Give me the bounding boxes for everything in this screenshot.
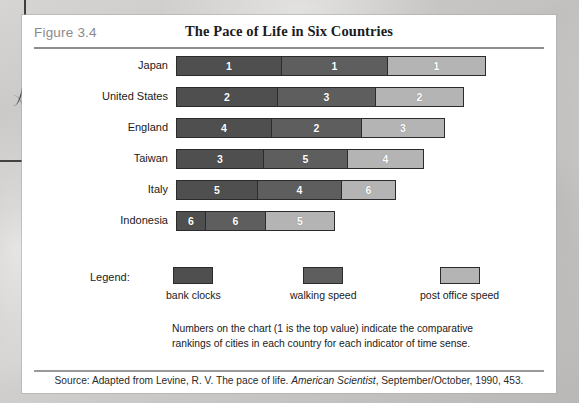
bar-segment: 2 (271, 119, 361, 137)
bar-segment: 1 (281, 57, 387, 75)
legend-item-label: walking speed (290, 289, 357, 301)
segment-rank-label: 6 (366, 185, 372, 196)
legend-item-label: post office speed (420, 289, 499, 301)
bar-row: Japan111 (22, 55, 556, 86)
bar-segment: 3 (361, 119, 444, 137)
figure-card: Figure 3.4 The Pace of Life in Six Count… (22, 15, 556, 393)
segment-rank-label: 5 (297, 216, 303, 227)
bar-segment: 6 (205, 212, 265, 230)
stacked-bar: 111 (176, 56, 486, 76)
segment-rank-label: 2 (224, 92, 230, 103)
stacked-bar: 423 (176, 118, 445, 138)
segment-rank-label: 5 (303, 154, 309, 165)
chart-note: Numbers on the chart (1 is the top value… (172, 322, 502, 351)
segment-rank-label: 4 (383, 154, 389, 165)
legend-item-label: bank clocks (166, 289, 221, 301)
bar-segment: 4 (347, 150, 423, 168)
bar-segment: 4 (177, 119, 271, 137)
bar-segment: 1 (177, 57, 281, 75)
stacked-bar: 232 (176, 87, 464, 107)
backdrop-line (0, 160, 24, 162)
country-label: United States (22, 90, 168, 102)
bar-segment: 3 (177, 150, 263, 168)
figure-title: The Pace of Life in Six Countries (22, 23, 556, 40)
bar-row: England423 (22, 117, 556, 148)
segment-rank-label: 3 (324, 92, 330, 103)
segment-rank-label: 1 (434, 61, 440, 72)
source-divider (34, 370, 544, 372)
bar-segment: 2 (375, 88, 463, 106)
legend-swatch (303, 267, 343, 284)
segment-rank-label: 6 (188, 216, 194, 227)
country-label: Italy (22, 183, 168, 195)
stacked-bar: 546 (176, 180, 396, 200)
legend-label: Legend: (90, 271, 130, 283)
legend-item: bank clocks (166, 265, 221, 301)
segment-rank-label: 6 (233, 216, 239, 227)
country-label: England (22, 121, 168, 133)
legend-swatch (440, 267, 480, 284)
bar-segment: 1 (387, 57, 485, 75)
stacked-bar: 665 (176, 211, 335, 231)
source-prefix: Source: Adapted from Levine, R. V. The p… (55, 375, 292, 386)
bar-segment: 5 (265, 212, 334, 230)
segment-rank-label: 4 (221, 123, 227, 134)
segment-rank-label: 4 (297, 185, 303, 196)
segment-rank-label: 3 (217, 154, 223, 165)
country-label: Indonesia (22, 214, 168, 226)
bar-row: Taiwan354 (22, 148, 556, 179)
bar-segment: 2 (177, 88, 277, 106)
bar-row: United States232 (22, 86, 556, 117)
bar-segment: 3 (277, 88, 375, 106)
legend-item: post office speed (420, 265, 499, 301)
country-label: Japan (22, 59, 168, 71)
bar-segment: 6 (177, 212, 205, 230)
header-divider (34, 47, 544, 49)
segment-rank-label: 1 (226, 61, 232, 72)
segment-rank-label: 5 (214, 185, 220, 196)
stacked-bar: 354 (176, 149, 424, 169)
segment-rank-label: 2 (314, 123, 320, 134)
legend-item: walking speed (290, 265, 357, 301)
bar-segment: 5 (177, 181, 257, 199)
segment-rank-label: 3 (400, 123, 406, 134)
chart-legend: Legend: bank clockswalking speedpost off… (22, 265, 556, 313)
source-journal: American Scientist (291, 375, 375, 386)
bar-segment: 4 (257, 181, 341, 199)
bar-segment: 6 (341, 181, 395, 199)
legend-swatch (173, 267, 213, 284)
segment-rank-label: 1 (332, 61, 338, 72)
source-citation: Source: Adapted from Levine, R. V. The p… (22, 375, 556, 386)
bar-row: Indonesia665 (22, 210, 556, 241)
country-label: Taiwan (22, 152, 168, 164)
source-suffix: , September/October, 1990, 453. (376, 375, 524, 386)
segment-rank-label: 2 (417, 92, 423, 103)
figure-header: Figure 3.4 The Pace of Life in Six Count… (22, 15, 556, 49)
stacked-bar-chart: Japan111United States232England423Taiwan… (22, 55, 556, 241)
bar-segment: 5 (263, 150, 347, 168)
bar-row: Italy546 (22, 179, 556, 210)
